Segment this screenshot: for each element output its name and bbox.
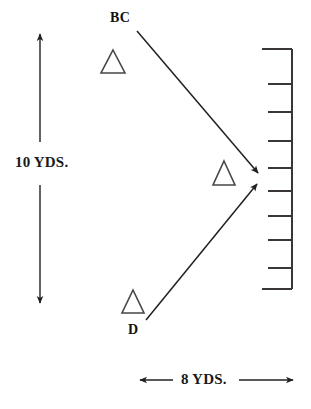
player-label-bc: BC <box>110 10 130 26</box>
diagram-canvas: 10 YDS. 8 YDS. BC D <box>0 0 311 409</box>
horizontal-dimension-label: 8 YDS. <box>181 371 227 388</box>
route-arrow-bc <box>137 31 258 173</box>
triangle-icon-top <box>101 50 125 73</box>
play-diagram-svg <box>0 0 311 409</box>
sideline-ladder-icon <box>262 49 292 289</box>
vertical-dimension-label: 10 YDS. <box>15 154 68 171</box>
player-label-d: D <box>128 322 138 338</box>
triangle-icon-middle <box>213 161 235 185</box>
route-arrow-d <box>146 184 257 320</box>
triangle-icon-bottom <box>122 290 144 313</box>
